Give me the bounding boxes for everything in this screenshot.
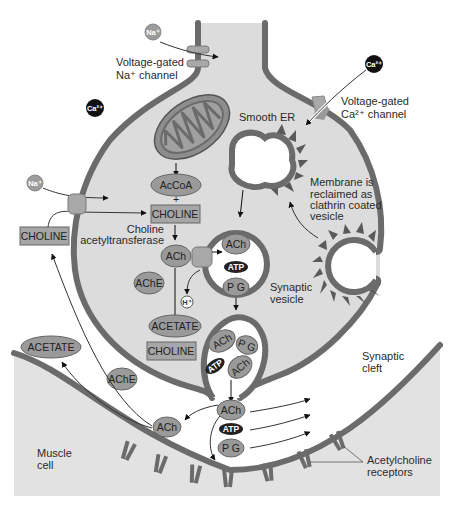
neuromuscular-junction-diagram: Na⁺ Voltage-gated Na⁺ channel Ca²⁺ Ca²⁺ … — [0, 0, 454, 510]
membrane-label-4: vesicle — [310, 210, 344, 222]
ca-channel-label-2: Ca²⁺ channel — [341, 108, 406, 120]
na-channel-label-1: Voltage-gated — [116, 56, 184, 68]
choline-inside-label: CHOLINE — [152, 208, 199, 220]
synaptic-vesicle-label-1: Synaptic — [270, 281, 313, 293]
receptors-label-1: Acetylcholine — [367, 454, 432, 466]
synaptic-vesicle-label-2: vesicle — [270, 293, 304, 305]
synaptic-vesicle-1: ACh ATP P G — [205, 233, 267, 296]
released-atp-label: ATP — [223, 424, 240, 434]
ache-outside-label: AChE — [108, 373, 135, 385]
accoa-label: AcCoA — [160, 179, 193, 191]
na-channel-label-2: Na⁺ channel — [116, 69, 178, 81]
muscle-cell-label-2: cell — [37, 459, 54, 471]
released-pg-label: P G — [222, 442, 240, 454]
synaptic-cleft-label-1: Synaptic — [362, 350, 405, 362]
membrane-label-1: Membrane is — [310, 176, 374, 188]
svg-text:ACh: ACh — [226, 238, 247, 250]
choline-outside-label: CHOLINE — [21, 230, 68, 242]
ca-ion-left-label: Ca²⁺ — [87, 104, 103, 113]
h-ion-label: H⁺ — [182, 298, 191, 307]
choline-na-cotransporter — [68, 194, 86, 214]
choline-inside-lower-label: CHOLINE — [148, 345, 195, 357]
enzyme-label-2: acetyltransferase — [80, 234, 164, 246]
ach-cytosol-label: ACh — [166, 250, 187, 262]
receptors-label-2: receptors — [367, 466, 413, 478]
ach-cleft-label: ACh — [157, 421, 178, 433]
plus-sign: + — [173, 193, 179, 205]
acetate-inside-label: ACETATE — [152, 320, 199, 332]
released-ach-label: ACh — [221, 404, 242, 416]
vesicular-transporter — [192, 247, 212, 267]
na-ion-left-label: Na⁺ — [28, 179, 42, 188]
ca-ion-right-label: Ca²⁺ — [366, 60, 382, 69]
acetate-outside-label: ACETATE — [28, 341, 75, 353]
svg-text:P G: P G — [227, 281, 245, 293]
synaptic-cleft-label-2: cleft — [362, 362, 382, 374]
ca-channel-label-1: Voltage-gated — [341, 95, 409, 107]
muscle-cell-label-1: Muscle — [37, 447, 72, 459]
na-ion-top-label: Na⁺ — [146, 28, 160, 37]
svg-text:ATP: ATP — [228, 262, 245, 272]
smooth-er-label: Smooth ER — [239, 111, 295, 123]
ache-inside-label: AChE — [135, 277, 162, 289]
